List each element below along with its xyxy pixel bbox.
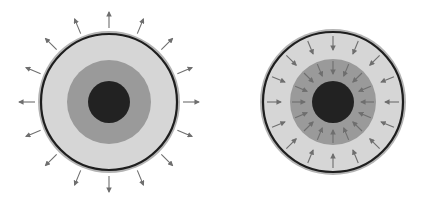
outward-arrow-icon [161, 154, 172, 165]
outward-flow-diagram [19, 12, 199, 192]
outward-arrow-icon [26, 130, 41, 136]
outward-arrow-icon [45, 38, 56, 49]
outward-arrow-icon [161, 38, 172, 49]
outward-arrow-icon [177, 68, 192, 74]
outward-arrow-icon [75, 170, 81, 185]
outward-arrow-icon [45, 154, 56, 165]
core [312, 81, 354, 123]
core [88, 81, 130, 123]
inward-flow-diagram [260, 29, 406, 175]
outward-arrow-icon [137, 170, 143, 185]
outward-arrow-icon [137, 19, 143, 34]
diagram-canvas [0, 0, 427, 203]
outward-arrow-icon [177, 130, 192, 136]
outward-arrow-icon [26, 68, 41, 74]
outward-arrow-icon [75, 19, 81, 34]
